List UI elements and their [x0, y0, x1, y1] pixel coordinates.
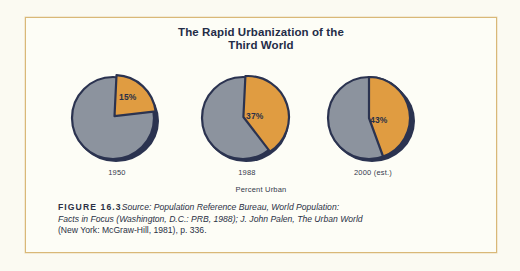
pie-data-label-1950: 15% — [119, 92, 137, 102]
figure-source-line-2: Facts in Focus (Washington, D.C.: PRB, 1… — [58, 214, 470, 226]
pie-chart-1988: 37% — [193, 68, 297, 168]
figure-caption-line-1: FIGURE 16.3Source: Population Reference … — [58, 202, 470, 214]
pie-panel-1950: 15% 1950 — [58, 68, 176, 180]
pie-chart-panels: 15% 1950 37% 1988 43 — [26, 68, 496, 180]
figure-caption: FIGURE 16.3Source: Population Reference … — [58, 202, 470, 237]
pie-year-label-1988: 1988 — [188, 168, 306, 177]
pie-panel-1988: 37% 1988 — [188, 68, 306, 180]
pie-year-label-2000: 2000 (est.) — [314, 168, 432, 177]
pie-data-label-2000: 43% — [370, 115, 388, 125]
axis-caption: Percent Urban — [26, 185, 496, 194]
pie-data-label-1988: 37% — [246, 111, 264, 121]
figure-number: FIGURE 16.3 — [58, 202, 122, 212]
figure-card: The Rapid Urbanization of the Third Worl… — [25, 17, 497, 253]
figure-source-line-1: Population Reference Bureau, World Popul… — [151, 202, 339, 212]
figure-source-label: Source: — [122, 202, 152, 212]
pie-svg-1950 — [63, 68, 167, 168]
pie-chart-2000: 43% — [319, 68, 423, 168]
pie-svg-1988 — [193, 68, 297, 168]
chart-title: The Rapid Urbanization of the Third Worl… — [26, 26, 496, 52]
figure-source-line-3: (New York: McGraw-Hill, 1981), p. 336. — [58, 225, 470, 237]
chart-title-line-2: Third World — [26, 39, 496, 52]
pie-year-label-1950: 1950 — [58, 168, 176, 177]
pie-chart-1950: 15% — [63, 68, 167, 168]
chart-title-line-1: The Rapid Urbanization of the — [26, 26, 496, 39]
pie-panel-2000: 43% 2000 (est.) — [314, 68, 432, 180]
